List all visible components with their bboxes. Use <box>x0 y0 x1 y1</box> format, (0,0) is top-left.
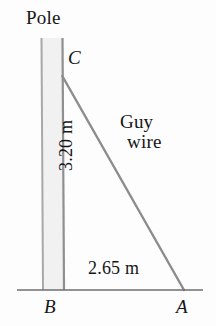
guy-wire-label-line2: wire <box>127 132 162 152</box>
guy-wire-label-line1: Guy <box>120 111 153 132</box>
guy-wire-diagram: Pole C Guy wire 3.20 m 2.65 m B A <box>0 0 216 326</box>
vertex-label-c: C <box>68 48 81 68</box>
vertex-label-b: B <box>44 297 56 317</box>
height-measurement-label: 3.20 m <box>57 120 76 171</box>
base-measurement-label: 2.65 m <box>88 259 139 278</box>
vertex-label-a: A <box>176 297 188 317</box>
guy-wire-label: Guy wire <box>120 112 162 152</box>
pole-label: Pole <box>26 8 61 28</box>
